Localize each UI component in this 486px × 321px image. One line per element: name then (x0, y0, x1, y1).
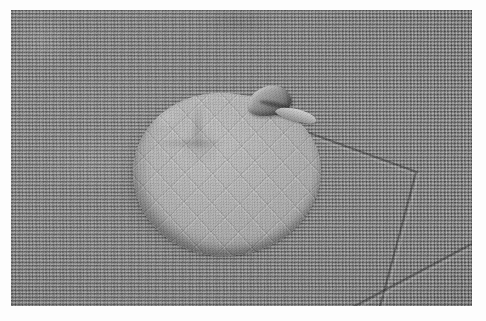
image-caption: Grayscale close-up photograph of a round… (0, 0, 1, 1)
round-fabric-pad (119, 82, 331, 260)
photo-frame: Grayscale close-up photograph of a round… (0, 0, 486, 321)
photograph-plate (11, 10, 472, 306)
